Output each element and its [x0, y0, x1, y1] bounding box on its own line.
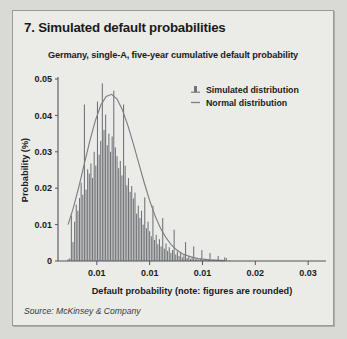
histogram-bar — [108, 134, 109, 261]
histogram-bar — [128, 178, 129, 261]
histogram-bar — [113, 91, 114, 261]
histogram-bar — [144, 197, 145, 261]
histogram-bar — [79, 198, 80, 261]
histogram-bar — [154, 240, 155, 261]
x-tick-label: 0.01 — [194, 268, 212, 278]
histogram-bar — [90, 163, 91, 261]
histogram-bars — [68, 83, 231, 261]
histogram-bar — [84, 104, 85, 261]
histogram-bar — [188, 256, 189, 261]
histogram-bar — [118, 168, 119, 261]
histogram-bar — [159, 239, 160, 261]
y-tick-label: 0.02 — [34, 183, 52, 193]
histogram-bar — [77, 211, 78, 261]
histogram-bar — [115, 147, 116, 261]
histogram-bar — [161, 246, 162, 261]
histogram-bar — [183, 255, 184, 261]
x-tick-label: 0.03 — [299, 268, 317, 278]
histogram-bar — [71, 216, 72, 262]
histogram-bar — [152, 206, 153, 261]
histogram-bar — [136, 214, 137, 261]
histogram-bar — [112, 137, 113, 261]
histogram-bar — [86, 190, 87, 261]
histogram-bar — [92, 178, 93, 261]
histogram-bar — [131, 186, 132, 261]
histogram-bar — [165, 244, 166, 261]
x-axis-tick-labels: 0.010.010.010.020.03 — [88, 261, 317, 278]
histogram-bar — [89, 174, 90, 261]
histogram-bar — [164, 249, 165, 261]
histogram-bar — [138, 206, 139, 261]
histogram-bar — [167, 251, 168, 261]
histogram-bar — [120, 161, 121, 261]
exhibit-card: 7. Simulated default probabilities Germa… — [12, 10, 334, 326]
histogram-bar — [170, 253, 171, 261]
histogram-bar — [177, 252, 178, 261]
histogram-bar — [139, 218, 140, 261]
histogram-bar — [126, 185, 127, 261]
histogram-bar — [81, 183, 82, 261]
histogram-bar — [94, 152, 95, 261]
histogram-bar — [103, 130, 104, 261]
histogram-bar — [193, 246, 194, 261]
histogram-bar — [169, 247, 170, 261]
y-tick-label: 0.05 — [34, 74, 52, 84]
histogram-bar — [95, 166, 96, 261]
histogram-bar — [179, 256, 180, 261]
histogram-bar — [175, 254, 176, 261]
x-axis-title: Default probability (note: figures are r… — [92, 286, 293, 296]
histogram-bar — [174, 230, 175, 261]
histogram-bar — [141, 211, 142, 261]
histogram-bar — [162, 218, 163, 261]
histogram-bar — [82, 195, 83, 261]
y-tick-label: 0 — [47, 256, 52, 266]
histogram-bar — [125, 166, 126, 261]
histogram-bar — [105, 115, 106, 261]
histogram-bar — [149, 231, 150, 261]
histogram-bar — [157, 244, 158, 261]
x-tick-label: 0.01 — [141, 268, 159, 278]
histogram-bar — [148, 222, 149, 261]
histogram-bar — [123, 104, 124, 261]
y-tick-label: 0.04 — [34, 111, 52, 121]
source-note: Source: McKinsey & Company — [24, 306, 141, 316]
histogram-bar — [87, 169, 88, 261]
y-tick-label: 0.01 — [34, 220, 52, 230]
histogram-bar — [74, 222, 75, 261]
histogram-bar — [156, 235, 157, 261]
y-axis-title: Probability (%) — [20, 138, 30, 202]
histogram-bar — [146, 228, 147, 261]
histogram-bar — [180, 253, 181, 261]
y-axis-title-text: Probability (%) — [20, 138, 30, 202]
x-axis-title-text: Default probability (note: figures are r… — [92, 286, 293, 296]
legend-bar-marker-icon — [194, 86, 197, 92]
histogram-bar — [76, 205, 77, 261]
y-tick-label: 0.03 — [34, 147, 52, 157]
histogram-bar — [107, 145, 108, 261]
histogram-bar — [143, 225, 144, 261]
histogram-bar — [134, 193, 135, 261]
histogram-bar — [100, 141, 101, 261]
histogram-bar — [102, 83, 103, 261]
histogram-bar — [99, 155, 100, 261]
histogram-bar — [130, 192, 131, 261]
legend-label: Normal distribution — [206, 98, 287, 108]
chart-plot-area: 00.010.020.030.040.05 0.010.010.010.020.… — [13, 11, 335, 327]
histogram-bar — [97, 102, 98, 261]
legend-label: Simulated distribution — [206, 85, 299, 95]
x-tick-label: 0.01 — [88, 268, 106, 278]
histogram-bar — [121, 175, 122, 261]
y-axis-tick-labels: 00.010.020.030.040.05 — [34, 74, 58, 266]
histogram-bar — [110, 152, 111, 261]
histogram-bar — [185, 242, 186, 261]
histogram-bar — [72, 242, 73, 261]
histogram-bar — [133, 198, 134, 261]
chart-legend: Simulated distributionNormal distributio… — [191, 85, 299, 108]
histogram-bar — [151, 236, 152, 261]
x-tick-label: 0.02 — [247, 268, 265, 278]
histogram-bar — [172, 250, 173, 261]
histogram-chart: 00.010.020.030.040.05 0.010.010.010.020.… — [13, 11, 335, 327]
histogram-bar — [117, 156, 118, 261]
